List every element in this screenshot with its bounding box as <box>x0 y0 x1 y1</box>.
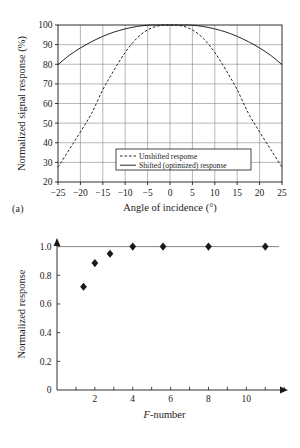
chart-b-x-tick-label: 4 <box>130 394 135 404</box>
chart-b-data-point <box>262 243 269 251</box>
chart-b-svg: 246810 00.20.40.60.81.0 F-number Normali… <box>0 226 300 448</box>
chart-a-y-axis-label: Normalized signal response (%) <box>16 35 28 171</box>
chart-b-y-tick-label: 0 <box>47 385 52 395</box>
chart-a-y-tick-label: 40 <box>43 138 53 148</box>
chart-a-x-tick-label: −15 <box>95 188 110 198</box>
chart-b-data-point <box>160 243 167 251</box>
chart-b-data-points <box>80 243 268 291</box>
chart-a-x-tick-label: 10 <box>210 188 220 198</box>
chart-panel-b: 246810 00.20.40.60.81.0 F-number Normali… <box>0 226 300 448</box>
chart-b-y-tick-label: 0.4 <box>40 328 52 338</box>
chart-b-x-tick-labels: 246810 <box>92 394 251 404</box>
chart-a-x-tick-label: −5 <box>143 188 153 198</box>
chart-b-y-tick-label: 0.2 <box>40 357 52 367</box>
chart-b-y-tick-label: 0.6 <box>40 299 52 309</box>
chart-b-y-tick-label: 1.0 <box>40 242 52 252</box>
chart-b-x-tick-label: 10 <box>242 394 252 404</box>
chart-a-y-tick-label: 80 <box>43 60 53 70</box>
chart-a-x-tick-label: 5 <box>190 188 195 198</box>
chart-a-x-tick-label: −25 <box>51 188 66 198</box>
chart-b-y-tick-label: 0.8 <box>40 271 52 281</box>
chart-a-svg: −25−20−15−10−50510152025 203040506070809… <box>0 0 300 226</box>
legend-label: Unshifted response <box>139 152 198 161</box>
chart-b-ticks <box>57 247 284 390</box>
chart-b-data-point <box>205 243 212 251</box>
chart-a-x-tick-label: 15 <box>232 188 242 198</box>
chart-b-x-tick-label: 8 <box>206 394 211 404</box>
chart-a-x-tick-labels: −25−20−15−10−50510152025 <box>51 188 287 198</box>
chart-a-legend: Unshifted responseShifted (optimized) re… <box>116 149 251 170</box>
figure-container: −25−20−15−10−50510152025 203040506070809… <box>0 0 300 448</box>
chart-a-x-tick-label: 0 <box>168 188 173 198</box>
chart-b-data-point <box>129 243 136 251</box>
chart-a-x-axis-label: Angle of incidence (°) <box>123 202 217 214</box>
chart-a-y-tick-labels: 2030405060708090100 <box>38 20 53 187</box>
chart-a-y-tick-label: 90 <box>43 40 53 50</box>
chart-b-data-point <box>92 259 99 267</box>
chart-a-y-tick-label: 60 <box>43 99 53 109</box>
chart-a-y-tick-label: 70 <box>43 79 53 89</box>
chart-a-x-tick-label: −20 <box>73 188 88 198</box>
panel-a-tag: (a) <box>12 203 24 214</box>
chart-b-x-tick-label: 2 <box>92 394 97 404</box>
chart-panel-a: −25−20−15−10−50510152025 203040506070809… <box>0 0 300 226</box>
chart-b-axes <box>54 238 288 393</box>
legend-label: Shifted (optimized) response <box>139 161 227 170</box>
chart-a-y-tick-label: 50 <box>43 119 53 129</box>
chart-a-x-tick-label: 25 <box>277 188 287 198</box>
chart-a-x-tick-label: 20 <box>255 188 265 198</box>
chart-a-y-tick-label: 20 <box>43 177 53 187</box>
chart-b-data-point <box>80 283 87 291</box>
chart-a-x-tick-label: −10 <box>118 188 133 198</box>
chart-b-x-tick-label: 6 <box>168 394 173 404</box>
chart-a-y-tick-label: 100 <box>38 20 53 30</box>
chart-a-y-tick-label: 30 <box>43 158 53 168</box>
chart-b-y-axis-label: Normalized response <box>16 269 27 358</box>
chart-b-x-axis-label: F-number <box>143 409 186 420</box>
chart-b-data-point <box>107 250 114 258</box>
chart-b-y-tick-labels: 00.20.40.60.81.0 <box>40 242 52 395</box>
